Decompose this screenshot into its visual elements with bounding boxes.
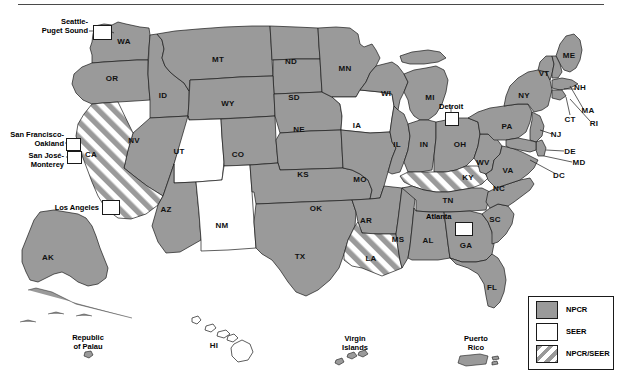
us-map-svg xyxy=(0,0,620,376)
state-label-MN: MN xyxy=(339,65,352,73)
state-AK xyxy=(22,210,108,286)
state-label-KY: KY xyxy=(462,174,474,182)
alaska-aleutians xyxy=(20,288,132,322)
state-label-ND: ND xyxy=(285,58,297,66)
state-NJ xyxy=(530,112,544,142)
state-label-DE: DE xyxy=(564,148,576,156)
state-TX xyxy=(254,200,356,296)
city-seer-box-los-angeles xyxy=(102,200,120,215)
state-label-RI: RI xyxy=(590,120,598,128)
state-label-DC: DC xyxy=(553,172,565,180)
state-label-TX: TX xyxy=(295,253,306,261)
state-label-VA: VA xyxy=(503,167,514,175)
state-label-OR: OR xyxy=(106,75,118,83)
state-label-AL: AL xyxy=(422,237,433,245)
map-legend: NPCR SEER NPCR/SEER xyxy=(528,296,614,370)
territory-virgin-islands xyxy=(335,350,368,365)
state-label-AK: AK xyxy=(42,254,54,262)
map-figure: WAORIDMTNDSDWYNVUTCONEKSCAAZNMOKTXMNIAMO… xyxy=(0,0,620,376)
state-DE xyxy=(536,140,546,156)
state-NE xyxy=(274,92,342,133)
state-label-LA: LA xyxy=(365,255,376,263)
legend-label-seer: SEER xyxy=(566,327,586,336)
state-WY xyxy=(188,76,275,120)
state-label-IA: IA xyxy=(353,122,361,130)
state-label-NJ: NJ xyxy=(551,131,562,139)
city-label-los-angeles: Los Angeles xyxy=(55,203,99,212)
state-label-WI: WI xyxy=(381,90,391,98)
state-label-FL: FL xyxy=(487,284,497,292)
city-seer-box-detroit xyxy=(445,112,459,126)
city-label-atlanta: Atlanta xyxy=(426,212,451,221)
city-seer-box-seattle-puget-sound xyxy=(93,25,112,40)
city-seer-box-san-francisco-oakland xyxy=(66,138,81,151)
state-label-WA: WA xyxy=(117,38,130,46)
state-label-UT: UT xyxy=(173,148,184,156)
city-label-detroit: Detroit xyxy=(439,102,463,111)
state-CT xyxy=(552,90,566,100)
state-label-VT: VT xyxy=(539,70,550,78)
state-label-WV: WV xyxy=(476,159,489,167)
state-label-MD: MD xyxy=(573,159,586,167)
legend-swatch-npcr xyxy=(536,301,558,319)
territory-puerto-rico xyxy=(458,354,499,366)
state-label-TN: TN xyxy=(442,197,453,205)
state-label-NM: NM xyxy=(216,222,229,230)
state-label-OH: OH xyxy=(454,141,466,149)
state-label-CA: CA xyxy=(85,151,97,159)
city-label-san-francisco-oakland: San Francisco-Oakland xyxy=(10,130,64,148)
state-label-IL: IL xyxy=(393,141,401,149)
territory-label-puerto-rico: PuertoRico xyxy=(464,334,488,352)
state-label-IN: IN xyxy=(420,141,428,149)
legend-label-npcr-seer: NPCR/SEER xyxy=(566,349,610,358)
state-label-CO: CO xyxy=(232,151,244,159)
state-label-NC: NC xyxy=(493,185,505,193)
state-SD xyxy=(273,59,322,94)
state-label-MO: MO xyxy=(353,176,366,184)
territory-label-republic-of-palau: Republicof Palau xyxy=(72,333,104,351)
state-label-GA: GA xyxy=(460,242,472,250)
state-label-MI: MI xyxy=(425,94,434,102)
state-label-OK: OK xyxy=(310,205,322,213)
state-label-MS: MS xyxy=(392,236,404,244)
state-label-PA: PA xyxy=(502,123,513,131)
state-HI-islands xyxy=(192,316,253,362)
state-label-NV: NV xyxy=(128,137,140,145)
state-label-HI: HI xyxy=(210,342,218,350)
state-CO xyxy=(221,116,278,166)
state-label-NY: NY xyxy=(518,92,530,100)
state-label-NE: NE xyxy=(293,126,305,134)
state-label-KS: KS xyxy=(297,171,309,179)
state-ND xyxy=(270,26,320,60)
state-label-NH: NH xyxy=(574,84,586,92)
legend-swatch-npcr-seer xyxy=(536,345,558,363)
city-label-san-jose-monterey: San José-Monterey xyxy=(29,151,64,169)
state-label-SC: SC xyxy=(489,216,501,224)
state-label-MT: MT xyxy=(212,56,224,64)
city-label-seattle-puget-sound: Seattle-Puget Sound xyxy=(42,17,88,35)
legend-label-npcr: NPCR xyxy=(566,305,587,314)
state-label-CT: CT xyxy=(564,116,575,124)
state-label-ID: ID xyxy=(159,92,167,100)
territory-palau xyxy=(84,351,93,358)
city-seer-box-san-jose-monterey xyxy=(67,151,82,164)
state-KS xyxy=(276,130,343,170)
state-FL xyxy=(450,254,506,308)
state-label-WY: WY xyxy=(221,100,234,108)
territory-label-virgin-islands: VirginIslands xyxy=(342,334,368,352)
legend-swatch-seer xyxy=(536,323,558,341)
state-label-ME: ME xyxy=(563,52,575,60)
city-seer-box-atlanta xyxy=(455,222,473,236)
state-label-SD: SD xyxy=(288,94,300,102)
state-label-AZ: AZ xyxy=(160,206,171,214)
state-label-MA: MA xyxy=(582,107,595,115)
state-label-AR: AR xyxy=(360,217,372,225)
